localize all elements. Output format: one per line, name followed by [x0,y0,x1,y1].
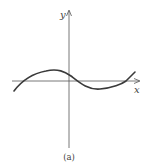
y-axis-label: y [59,9,66,20]
function-curve [14,70,135,91]
x-axis-label: x [134,84,140,95]
function-graph: y x (a) [0,0,151,166]
figure-caption: (a) [63,152,75,162]
